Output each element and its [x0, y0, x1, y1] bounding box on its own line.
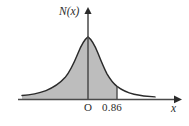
y-axis-arrowhead [84, 7, 91, 14]
shaded-area-region [22, 37, 117, 99]
origin-label: O [84, 102, 92, 113]
figure-container: N(x) x O 0.86 [0, 0, 189, 126]
normal-distribution-chart [0, 0, 189, 126]
x-axis-label: x [171, 103, 176, 115]
x-tick-label-086: 0.86 [102, 102, 122, 113]
y-axis-label: N(x) [59, 6, 79, 18]
